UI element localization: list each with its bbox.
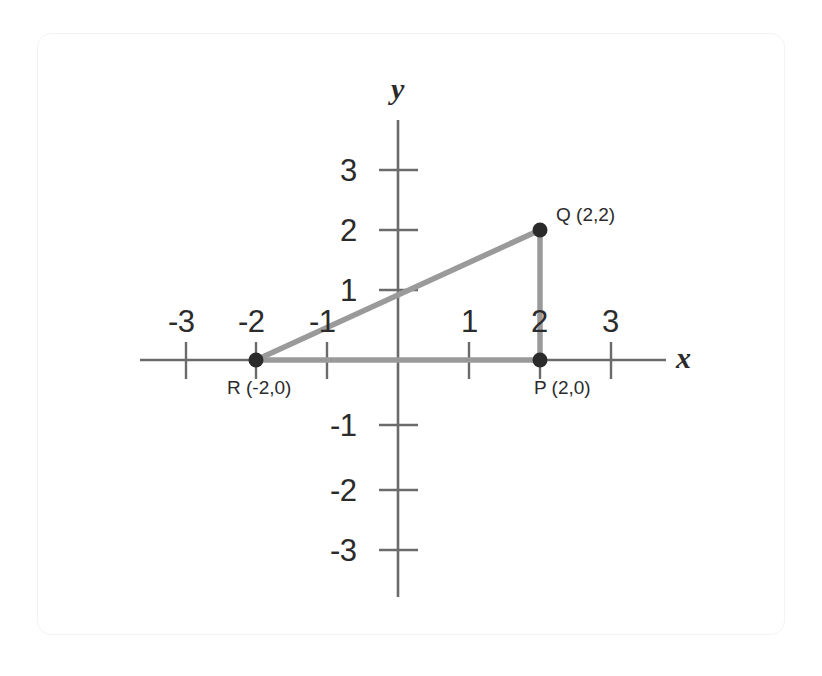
y-axis-label: y	[391, 74, 404, 104]
y-tick-label-3: 3	[340, 155, 357, 186]
point-marker-P	[533, 353, 548, 368]
x-tick-label-1: 1	[461, 306, 478, 337]
point-marker-R	[249, 353, 264, 368]
x-tick-label--2: -2	[238, 306, 265, 337]
point-label-R: R (-2,0)	[227, 378, 291, 397]
y-tick-label--2: -2	[330, 475, 357, 506]
x-axis-label: x	[676, 343, 691, 373]
y-tick-label-1: 1	[340, 275, 357, 306]
x-tick-label-2: 2	[531, 306, 548, 337]
y-tick-label-2: 2	[340, 215, 357, 246]
x-tick-label--3: -3	[168, 306, 195, 337]
y-tick-label--1: -1	[330, 410, 357, 441]
point-label-P: P (2,0)	[534, 378, 591, 397]
y-tick-label--3: -3	[330, 535, 357, 566]
point-label-Q: Q (2,2)	[556, 205, 615, 224]
x-tick-label--1: -1	[309, 306, 336, 337]
point-marker-Q	[533, 223, 548, 238]
x-tick-label-3: 3	[602, 306, 619, 337]
coordinate-plane-diagram	[0, 0, 822, 676]
